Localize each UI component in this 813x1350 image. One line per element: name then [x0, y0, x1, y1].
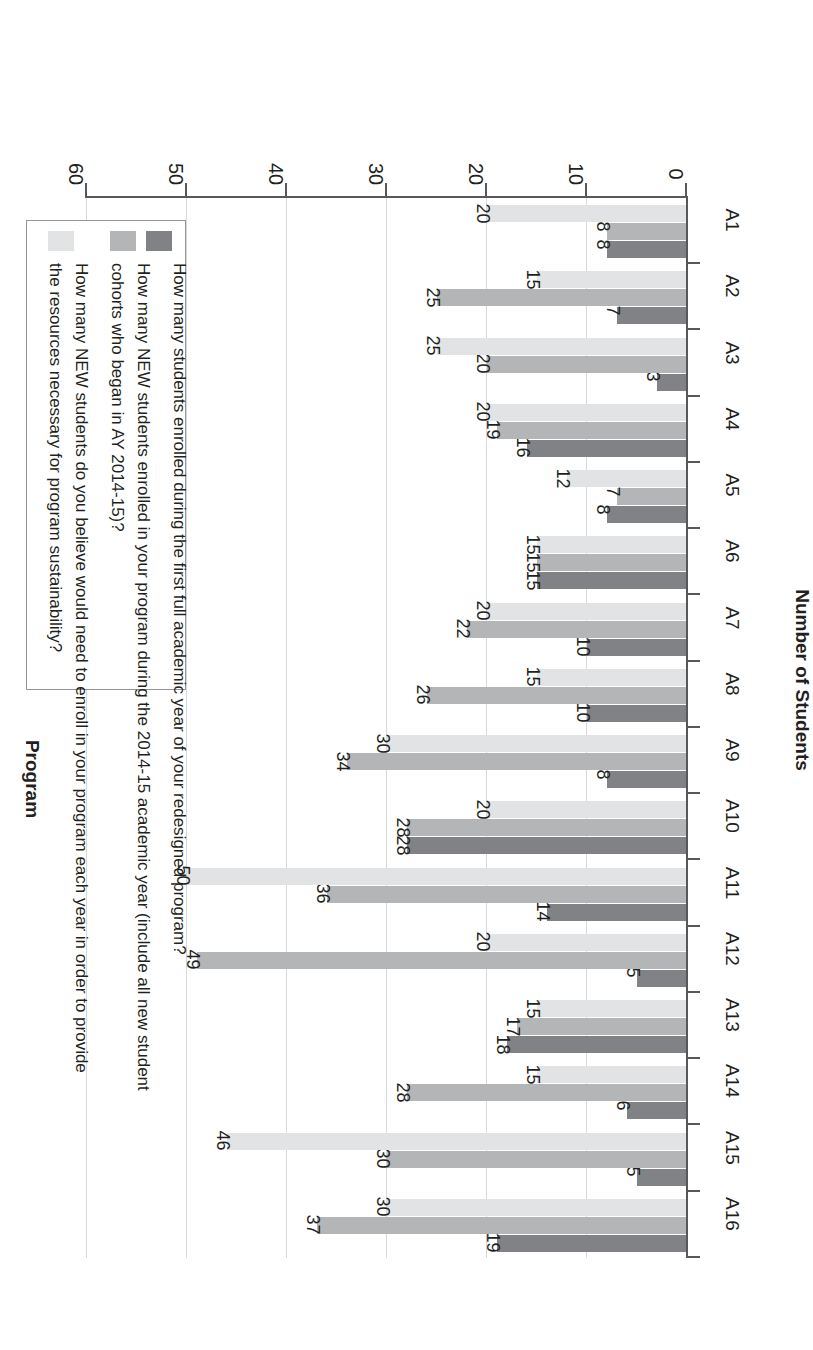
bar-value-label: 22: [452, 619, 473, 639]
y-axis-tick-label: 60: [64, 163, 87, 185]
bar-value-label: 25: [422, 336, 443, 356]
bar-A5-series2: [567, 470, 687, 487]
y-axis-line: [686, 196, 688, 1258]
bar-value-label: 19: [482, 1233, 503, 1253]
bar-A13-series1: [517, 1018, 687, 1035]
bar-A11-series0: [547, 904, 687, 921]
bar-A7-series2: [487, 603, 687, 620]
y-axis-tick-label: 0: [664, 168, 687, 179]
x-axis-category-label-A1: A1: [721, 209, 743, 232]
bar-value-label: 30: [372, 1197, 393, 1217]
x-axis-tick: [687, 1057, 700, 1059]
bar-A12-series2: [487, 934, 687, 951]
legend-label-line: How many students enrolled during the fi…: [171, 263, 188, 955]
y-axis-tick-label: 20: [464, 163, 487, 185]
bar-value-label: 25: [422, 287, 443, 307]
gridline: [386, 198, 387, 1258]
bar-A6-series1: [537, 554, 687, 571]
bar-value-label: 8: [592, 769, 613, 779]
x-axis-tick: [687, 395, 700, 397]
bar-A14-series2: [537, 1066, 687, 1083]
bar-A12-series1: [197, 952, 687, 969]
bar-value-label: 15: [522, 570, 543, 590]
bar-value-label: 15: [522, 667, 543, 687]
bar-value-label: 8: [592, 239, 613, 249]
bar-value-label: 10: [572, 703, 593, 723]
bar-value-label: 17: [502, 1016, 523, 1036]
bar-A3-series2: [437, 338, 687, 355]
bar-A4-series2: [487, 404, 687, 421]
bar-A5-series0: [607, 506, 687, 523]
x-axis-tick: [687, 925, 700, 927]
medium-gray-swatch: [110, 231, 136, 251]
bar-A15-series2: [227, 1133, 687, 1150]
bar-value-label: 19: [482, 420, 503, 440]
bar-A9-series2: [387, 735, 687, 752]
x-axis-category-label-A13: A13: [721, 998, 743, 1032]
bar-value-label: 12: [552, 468, 573, 488]
bar-A4-series1: [497, 422, 687, 439]
x-axis-category-label-A3: A3: [721, 341, 743, 364]
x-axis-tick: [687, 1190, 700, 1192]
bar-A11-series1: [327, 886, 687, 903]
x-axis-category-label-A10: A10: [721, 799, 743, 833]
x-axis-tick: [687, 792, 700, 794]
bar-A7-series0: [587, 639, 687, 656]
dark-gray-swatch: [146, 231, 172, 251]
bar-value-label: 30: [372, 733, 393, 753]
x-axis-category-label-A2: A2: [721, 275, 743, 298]
bar-A6-series2: [537, 536, 687, 553]
bar-value-label: 8: [592, 504, 613, 514]
bar-A3-series1: [487, 356, 687, 373]
bar-value-label: 20: [472, 601, 493, 621]
x-axis-tick: [687, 594, 700, 596]
x-axis-tick: [687, 461, 700, 463]
bar-value-label: 15: [522, 1064, 543, 1084]
bar-value-label: 28: [392, 1082, 413, 1102]
bar-A15-series1: [387, 1151, 687, 1168]
x-axis-line: [85, 196, 687, 198]
bar-A7-series1: [467, 621, 687, 638]
bar-A13-series0: [507, 1036, 687, 1053]
x-axis-tick: [687, 329, 700, 331]
bar-value-label: 6: [612, 1100, 633, 1110]
bar-A2-series1: [437, 289, 687, 306]
bar-A10-series2: [487, 801, 687, 818]
bar-A1-series2: [487, 205, 687, 222]
bar-A1-series0: [607, 241, 687, 258]
bar-A8-series0: [587, 705, 687, 722]
legend-label-line: How many NEW students do you believe wou…: [73, 263, 90, 1073]
x-axis-tick: [687, 660, 700, 662]
x-axis-category-label-A15: A15: [721, 1131, 743, 1165]
bar-A12-series0: [637, 970, 687, 987]
bar-A11-series2: [187, 868, 687, 885]
bar-A9-series1: [347, 753, 687, 770]
bar-value-label: 15: [522, 269, 543, 289]
bar-value-label: 18: [492, 1034, 513, 1054]
bar-value-label: 5: [622, 1167, 643, 1177]
x-axis-category-label-A7: A7: [721, 606, 743, 629]
bar-A14-series0: [627, 1102, 687, 1119]
chart-legend: How many students enrolled during the fi…: [26, 220, 186, 690]
x-axis-category-label-A11: A11: [721, 866, 743, 898]
bar-A6-series0: [537, 572, 687, 589]
bar-value-label: 20: [472, 203, 493, 223]
x-axis-tick: [687, 527, 700, 529]
bar-A5-series1: [617, 488, 687, 505]
bar-value-label: 28: [392, 835, 413, 855]
bar-A15-series0: [637, 1169, 687, 1186]
x-axis-tick: [687, 262, 700, 264]
bar-A10-series0: [407, 837, 687, 854]
x-axis-tick: [687, 1124, 700, 1126]
x-axis-category-label-A4: A4: [721, 407, 743, 430]
light-gray-swatch: [48, 231, 74, 251]
bar-value-label: 34: [332, 751, 353, 771]
x-axis-tick: [687, 726, 700, 728]
bar-A8-series2: [537, 669, 687, 686]
bar-A16-series1: [317, 1217, 687, 1234]
bar-value-label: 8: [592, 221, 613, 231]
legend-label-line: cohorts who began in AY 2014-15)?: [109, 263, 126, 532]
bar-value-label: 15: [522, 998, 543, 1018]
